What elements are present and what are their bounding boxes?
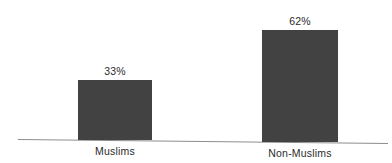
bar-muslims xyxy=(78,80,152,140)
plot-area: 33% Muslims 62% Non-Muslims xyxy=(0,0,392,163)
category-label-non-muslims: Non-Muslims xyxy=(250,147,350,159)
value-label-muslims: 33% xyxy=(78,65,152,77)
bar-non-muslims xyxy=(262,30,338,143)
bar-chart: 33% Muslims 62% Non-Muslims xyxy=(0,0,392,163)
category-label-muslims: Muslims xyxy=(73,145,157,157)
value-label-non-muslims: 62% xyxy=(262,15,338,27)
